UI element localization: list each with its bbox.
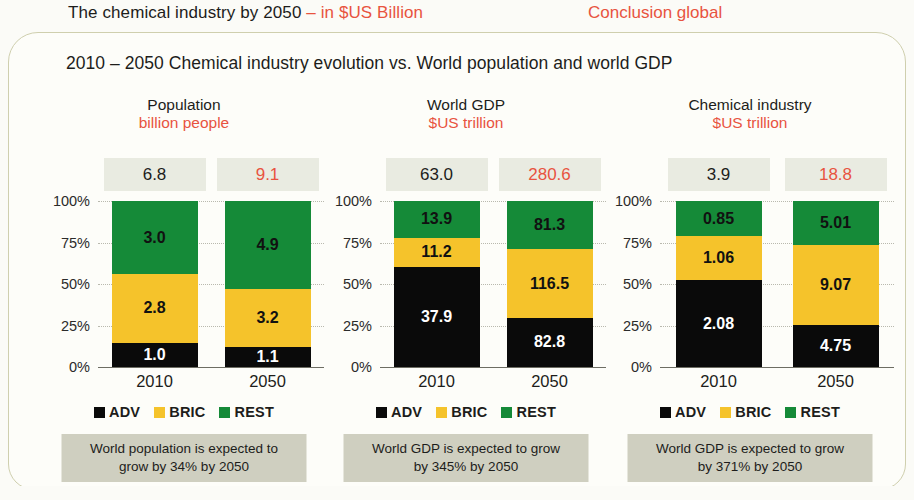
legend-item-adv[interactable]: ADV: [376, 404, 422, 420]
plot-area: 100%75%50%25%0%0.851.062.085.019.074.75: [600, 201, 900, 367]
header-title-subtitle: – in $US Billion: [306, 3, 423, 22]
panel-title: World GDP: [320, 96, 612, 114]
y-axis-tick: 50%: [343, 276, 372, 292]
panel-heading: Populationbillion people: [38, 96, 330, 133]
chart-panel-population: Populationbillion people6.89.1100%75%50%…: [38, 96, 330, 488]
y-axis-labels: 100%75%50%25%0%: [600, 201, 656, 367]
bar-segment-rest: 0.85: [676, 201, 762, 236]
bar-segment-bric: 116.5: [507, 249, 593, 318]
x-axis-tick: 2010: [418, 372, 455, 391]
bar-segment-adv: 82.8: [507, 318, 593, 367]
total-value-box: 63.0: [386, 158, 488, 191]
legend-swatch-icon: [94, 407, 105, 418]
plot-area: 100%75%50%25%0%13.911.237.981.3116.582.8: [320, 201, 612, 367]
panel-heading: Chemical industry$US trillion: [600, 96, 900, 133]
bar-segment-bric: 11.2: [394, 238, 480, 268]
legend-label: BRIC: [451, 404, 487, 420]
legend-swatch-icon: [785, 407, 796, 418]
panel-caption: World GDP is expected to grow by 345% by…: [344, 434, 589, 482]
bar-segment-bric: 1.06: [676, 236, 762, 280]
bar-segment-adv: 4.75: [793, 325, 879, 367]
legend-item-bric[interactable]: BRIC: [720, 404, 771, 420]
legend-item-rest[interactable]: REST: [501, 404, 555, 420]
legend-label: ADV: [109, 404, 140, 420]
legend-item-adv[interactable]: ADV: [94, 404, 140, 420]
total-value-box: 18.8: [785, 158, 887, 191]
chart-legend: ADVBRICREST: [600, 404, 900, 420]
slide-subtitle: 2010 – 2050 Chemical industry evolution …: [66, 53, 673, 74]
slide-header: The chemical industry by 2050 – in $US B…: [0, 0, 914, 30]
legend-swatch-icon: [154, 407, 165, 418]
legend-item-bric[interactable]: BRIC: [436, 404, 487, 420]
plot-area: 100%75%50%25%0%3.02.81.04.93.21.1: [38, 201, 330, 367]
y-axis-tick: 100%: [615, 193, 652, 209]
legend-label: REST: [516, 404, 555, 420]
totals-row: 63.0280.6: [320, 158, 612, 191]
chart-panel-world-gdp: World GDP$US trillion63.0280.6100%75%50%…: [320, 96, 612, 488]
legend-label: REST: [800, 404, 839, 420]
legend-swatch-icon: [720, 407, 731, 418]
y-axis-tick: 25%: [343, 318, 372, 334]
header-title: The chemical industry by 2050 – in $US B…: [68, 3, 423, 23]
panel-caption: World population is expected to grow by …: [62, 434, 307, 482]
legend-item-rest[interactable]: REST: [785, 404, 839, 420]
header-section-label: Conclusion global: [588, 3, 722, 23]
total-value-box: 9.1: [217, 158, 319, 191]
y-axis-tick: 100%: [53, 193, 90, 209]
bar-segment-rest: 81.3: [507, 201, 593, 249]
chart-panel-chemical-industry: Chemical industry$US trillion3.918.8100%…: [600, 96, 900, 488]
y-axis-tick: 75%: [623, 235, 652, 251]
y-axis-tick: 25%: [623, 318, 652, 334]
panel-caption: World GDP is expected to grow by 371% by…: [628, 434, 873, 482]
total-value-box: 280.6: [499, 158, 601, 191]
x-axis-tick: 2050: [531, 372, 568, 391]
legend-swatch-icon: [219, 407, 230, 418]
stacked-bar: 13.911.237.9: [394, 201, 480, 367]
x-axis-tick: 2010: [700, 372, 737, 391]
legend-item-bric[interactable]: BRIC: [154, 404, 205, 420]
y-axis-labels: 100%75%50%25%0%: [320, 201, 376, 367]
x-axis-baseline: [98, 367, 324, 368]
bar-segment-adv: 1.0: [112, 343, 198, 367]
bar-segment-rest: 4.9: [225, 201, 311, 289]
legend-swatch-icon: [501, 407, 512, 418]
legend-label: BRIC: [735, 404, 771, 420]
bar-segment-adv: 37.9: [394, 267, 480, 367]
legend-label: BRIC: [169, 404, 205, 420]
chart-legend: ADVBRICREST: [38, 404, 330, 420]
panel-title: Chemical industry: [600, 96, 900, 114]
stacked-bar: 81.3116.582.8: [507, 201, 593, 367]
chart-legend: ADVBRICREST: [320, 404, 612, 420]
stacked-bar: 3.02.81.0: [112, 201, 198, 367]
bar-segment-bric: 2.8: [112, 274, 198, 342]
legend-item-rest[interactable]: REST: [219, 404, 273, 420]
legend-label: REST: [234, 404, 273, 420]
legend-swatch-icon: [660, 407, 671, 418]
x-axis-baseline: [380, 367, 606, 368]
panel-heading: World GDP$US trillion: [320, 96, 612, 133]
bar-segment-bric: 3.2: [225, 289, 311, 347]
y-axis-labels: 100%75%50%25%0%: [38, 201, 94, 367]
y-axis-tick: 50%: [61, 276, 90, 292]
legend-item-adv[interactable]: ADV: [660, 404, 706, 420]
panel-unit: billion people: [38, 114, 330, 132]
y-axis-tick: 100%: [335, 193, 372, 209]
legend-label: ADV: [391, 404, 422, 420]
header-title-main: The chemical industry by 2050: [68, 3, 306, 22]
legend-label: ADV: [675, 404, 706, 420]
x-axis-labels: 20102050: [320, 372, 612, 394]
y-axis-tick: 25%: [61, 318, 90, 334]
totals-row: 6.89.1: [38, 158, 330, 191]
total-value-box: 6.8: [104, 158, 206, 191]
bar-segment-adv: 2.08: [676, 280, 762, 367]
panel-title: Population: [38, 96, 330, 114]
legend-swatch-icon: [376, 407, 387, 418]
stacked-bar: 4.93.21.1: [225, 201, 311, 367]
x-axis-tick: 2010: [136, 372, 173, 391]
x-axis-labels: 20102050: [600, 372, 900, 394]
y-axis-tick: 75%: [343, 235, 372, 251]
bar-segment-adv: 1.1: [225, 347, 311, 367]
bar-segment-rest: 13.9: [394, 201, 480, 238]
panel-unit: $US trillion: [320, 114, 612, 132]
panel-unit: $US trillion: [600, 114, 900, 132]
